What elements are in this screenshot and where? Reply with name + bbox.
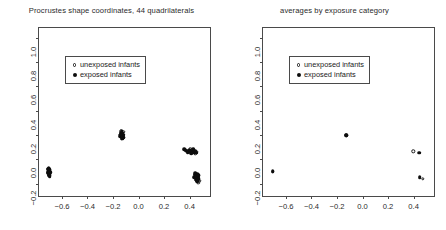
panel-right-plot-area: −0.20.00.20.40.60.81.0 unexposed infants… [262, 27, 435, 197]
ytick-label: 0.6 [253, 86, 262, 114]
panel-left-legend: unexposed infants exposed infants [65, 56, 146, 84]
panel-left-title: Procrustes shape coordinates, 44 quadril… [0, 6, 223, 15]
legend-entry-unexposed: unexposed infants [70, 60, 140, 70]
ytick-label: −0.2 [253, 184, 262, 212]
xtick-label: 0.0 [357, 202, 368, 211]
figure-canvas: Procrustes shape coordinates, 44 quadril… [0, 0, 446, 230]
ytick-label: 1.0 [29, 38, 38, 66]
ytick-label: 0.4 [29, 111, 38, 139]
panel-right: averages by exposure category −0.20.00.2… [223, 0, 446, 230]
filled-circle-icon [294, 73, 303, 77]
open-circle-icon [70, 63, 79, 66]
xtick-label: −0.6 [278, 202, 293, 211]
filled-circle-icon [70, 73, 79, 77]
ytick-label: 1.0 [253, 38, 262, 66]
xtick-label: 0.2 [159, 202, 170, 211]
ytick-label: 0.2 [29, 135, 38, 163]
legend-entry-exposed: exposed infants [294, 70, 364, 80]
data-point [186, 151, 190, 155]
legend-label-exposed: exposed infants [303, 70, 356, 79]
xtick-label: 0.2 [383, 202, 394, 211]
xtick-label: −0.2 [106, 202, 121, 211]
ytick-label: 0.8 [253, 62, 262, 90]
xtick-label: 0.0 [133, 202, 144, 211]
legend-label-unexposed: unexposed infants [79, 60, 140, 69]
panel-left: Procrustes shape coordinates, 44 quadril… [0, 0, 223, 230]
ytick-label: −0.2 [29, 184, 38, 212]
xtick-label: −0.2 [330, 202, 345, 211]
ytick-label: 0.2 [253, 135, 262, 163]
ytick-label: 0.0 [253, 159, 262, 187]
panel-right-legend: unexposed infants exposed infants [289, 56, 370, 84]
data-point [418, 175, 422, 179]
xtick-label: −0.4 [80, 202, 95, 211]
panel-left-plot-area: −0.20.00.20.40.60.81.0 unexposed infants… [38, 27, 211, 197]
data-point [47, 173, 51, 177]
open-circle-icon [294, 63, 303, 66]
ytick-label: 0.6 [29, 86, 38, 114]
xtick-label: 0.4 [408, 202, 419, 211]
data-point [271, 170, 275, 174]
legend-label-exposed: exposed infants [79, 70, 132, 79]
panel-right-xtick-labels: −0.6−0.4−0.20.00.20.4 [263, 196, 434, 216]
data-point [345, 134, 349, 138]
legend-entry-exposed: exposed infants [70, 70, 140, 80]
ytick-label: 0.4 [253, 111, 262, 139]
xtick-label: −0.6 [54, 202, 69, 211]
data-point [120, 135, 124, 139]
data-point [193, 149, 197, 153]
data-point [412, 150, 415, 153]
panel-left-xtick-labels: −0.6−0.4−0.20.00.20.4 [39, 196, 210, 216]
xtick-label: 0.4 [184, 202, 195, 211]
ytick-label: 0.8 [29, 62, 38, 90]
panel-right-title: averages by exposure category [223, 6, 446, 15]
legend-label-unexposed: unexposed infants [303, 60, 364, 69]
legend-entry-unexposed: unexposed infants [294, 60, 364, 70]
ytick-label: 0.0 [29, 159, 38, 187]
data-point [417, 151, 421, 155]
data-point [195, 179, 199, 183]
xtick-label: −0.4 [304, 202, 319, 211]
data-point [196, 172, 200, 176]
